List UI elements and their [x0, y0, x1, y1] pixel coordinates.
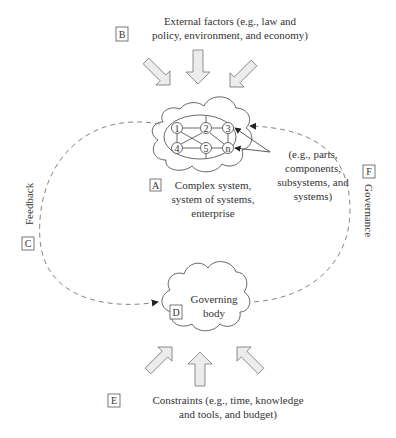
constraints-label: E Constraints (e.g., time, knowledge and… [108, 394, 304, 421]
svg-text:F: F [366, 166, 372, 177]
svg-text:External factors (e.g., law an: External factors (e.g., law and [164, 15, 297, 28]
svg-text:E: E [111, 395, 117, 406]
svg-text:enterprise: enterprise [191, 207, 234, 219]
svg-text:C: C [25, 238, 32, 249]
svg-text:Governance: Governance [363, 184, 375, 237]
svg-text:Constraints (e.g., time, knowl: Constraints (e.g., time, knowledge [152, 394, 303, 407]
governance-label: F Governance [363, 165, 375, 237]
svg-text:n: n [226, 143, 231, 154]
governance-diagram: B External factors (e.g., law and policy… [0, 0, 396, 438]
complex-system-label: A Complex system, system of systems, ent… [150, 179, 255, 219]
svg-text:and tools, and budget): and tools, and budget) [179, 408, 277, 421]
svg-text:body: body [203, 307, 226, 319]
feedback-loop [40, 122, 160, 304]
svg-text:3: 3 [226, 123, 231, 134]
svg-text:(e.g., parts,: (e.g., parts, [288, 148, 337, 161]
svg-text:1: 1 [175, 123, 180, 134]
feedback-label: C Feedback [22, 182, 35, 250]
svg-text:Governing: Governing [190, 293, 238, 305]
svg-text:system of systems,: system of systems, [172, 193, 255, 205]
external-arrows [139, 50, 261, 94]
svg-text:A: A [152, 180, 160, 191]
svg-text:systems): systems) [294, 190, 333, 203]
svg-text:policy, environment, and econo: policy, environment, and economy) [152, 29, 308, 42]
external-factors-label: B External factors (e.g., law and policy… [116, 15, 308, 42]
complex-system-cloud [152, 97, 252, 172]
svg-text:4: 4 [175, 143, 180, 154]
components-note: (e.g., parts, components, subsystems, an… [277, 148, 349, 203]
svg-text:Feedback: Feedback [23, 182, 35, 225]
svg-text:subsystems, and: subsystems, and [277, 176, 349, 188]
constraint-arrows [141, 340, 268, 386]
svg-text:components,: components, [285, 162, 341, 174]
svg-text:Complex system,: Complex system, [175, 179, 252, 191]
svg-text:2: 2 [204, 123, 209, 134]
svg-text:5: 5 [204, 143, 209, 154]
svg-text:D: D [172, 307, 179, 318]
svg-text:B: B [119, 29, 126, 40]
